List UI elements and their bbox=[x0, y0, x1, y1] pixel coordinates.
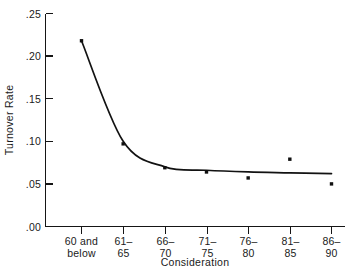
y-tick-label-000: .00 bbox=[26, 221, 41, 233]
data-point bbox=[246, 176, 249, 179]
x-tick-label-6-line1: 86– bbox=[322, 235, 340, 247]
y-axis-title: Turnover Rate bbox=[3, 85, 15, 156]
data-point bbox=[288, 157, 291, 160]
x-tick-label-4-line2: 80 bbox=[242, 247, 254, 259]
x-tick-label-4-line1: 76– bbox=[239, 235, 257, 247]
x-tick-label-1-line2: 65 bbox=[117, 247, 129, 259]
x-axis-title: Consideration bbox=[161, 256, 230, 268]
data-point bbox=[163, 166, 166, 169]
y-axis-ticks bbox=[46, 14, 53, 227]
turnover-rate-line-chart: .25 .20 .15 .10 .05 .00 60 and below 61–… bbox=[0, 0, 350, 270]
data-point bbox=[330, 182, 333, 185]
x-tick-label-6-line2: 90 bbox=[325, 247, 337, 259]
x-tick-label-3-line1: 71– bbox=[198, 235, 216, 247]
x-tick-label-1-line1: 61– bbox=[114, 235, 132, 247]
x-tick-label-0-line1: 60 and bbox=[65, 235, 98, 247]
fitted-curve bbox=[82, 41, 332, 174]
x-tick-label-5-line2: 85 bbox=[284, 247, 296, 259]
x-tick-label-2-line1: 66– bbox=[156, 235, 174, 247]
data-point bbox=[121, 142, 124, 145]
x-tick-label-0-line2: below bbox=[67, 247, 96, 259]
y-tick-label-020: .20 bbox=[26, 50, 41, 62]
x-axis-ticks bbox=[82, 227, 332, 234]
x-tick-label-5-line1: 81– bbox=[281, 235, 299, 247]
chart-container: .25 .20 .15 .10 .05 .00 60 and below 61–… bbox=[0, 0, 350, 270]
data-point bbox=[205, 170, 208, 173]
y-tick-label-005: .05 bbox=[26, 178, 41, 190]
y-tick-label-015: .15 bbox=[26, 93, 41, 105]
y-tick-label-010: .10 bbox=[26, 135, 41, 147]
data-point bbox=[80, 39, 83, 42]
y-tick-label-025: .25 bbox=[26, 8, 41, 20]
y-axis-tick-labels: .25 .20 .15 .10 .05 .00 bbox=[26, 8, 41, 233]
axis-spines bbox=[46, 14, 345, 227]
data-point-markers bbox=[80, 39, 333, 186]
